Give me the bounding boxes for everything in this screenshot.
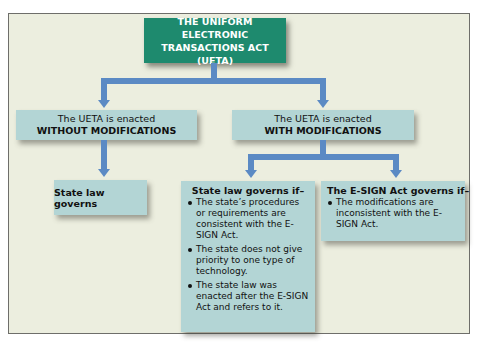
conditions-list: The modifications are inconsistent with …: [327, 197, 459, 230]
node-with-modifications: The UETA is enacted WITH MODIFICATIONS: [232, 110, 414, 140]
connector-right-left-drop: [248, 154, 254, 171]
outcome-text: State law governs: [54, 187, 147, 209]
root-title-line1: THE UNIFORM ELECTRONIC: [144, 15, 286, 41]
connector-root-horizontal: [101, 78, 326, 84]
arrow-down-icon: [98, 169, 110, 177]
connector-root-left-drop: [101, 78, 107, 100]
connector-left-vertical: [101, 140, 107, 170]
conditions-heading: State law governs if–: [187, 185, 309, 196]
node-without-modifications: The UETA is enacted WITHOUT MODIFICATION…: [16, 110, 197, 140]
condition-item: The state law was enacted after the E-SI…: [187, 280, 309, 313]
node-state-law-conditions: State law governs if– The state’s proced…: [181, 181, 315, 332]
arrow-down-icon: [245, 170, 257, 178]
node-text-line1: The UETA is enacted: [274, 113, 371, 125]
condition-item: The state does not give priority to one …: [187, 244, 309, 277]
connector-root-right-drop: [320, 78, 326, 100]
node-text-line2: WITH MODIFICATIONS: [264, 125, 381, 137]
condition-item: The state’s procedures or requirements a…: [187, 197, 309, 241]
root-node-ueta: THE UNIFORM ELECTRONIC TRANSACTIONS ACT …: [144, 18, 286, 63]
arrow-down-icon: [390, 170, 402, 178]
conditions-list: The state’s procedures or requirements a…: [187, 197, 309, 313]
conditions-heading: The E-SIGN Act governs if–: [327, 185, 459, 196]
condition-item: The modifications are inconsistent with …: [327, 197, 459, 230]
connector-right-right-drop: [393, 154, 399, 171]
arrow-down-icon: [317, 100, 329, 108]
node-text-line1: The UETA is enacted: [58, 113, 155, 125]
connector-right-horizontal: [248, 154, 399, 160]
node-text-line2: WITHOUT MODIFICATIONS: [37, 125, 176, 137]
node-state-law-governs: State law governs: [54, 180, 147, 215]
node-esign-conditions: The E-SIGN Act governs if– The modificat…: [321, 181, 465, 241]
arrow-down-icon: [98, 100, 110, 108]
